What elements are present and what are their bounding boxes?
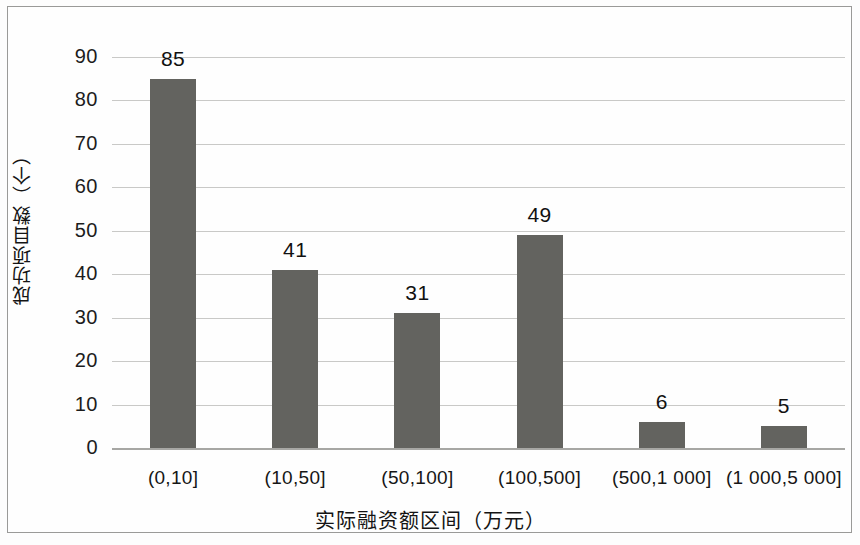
bar-value-label: 31 (367, 281, 467, 305)
gridline (112, 100, 845, 101)
y-axis-tick-label: 30 (40, 306, 98, 329)
gridline (112, 187, 845, 188)
bar (272, 270, 318, 448)
y-axis-tick-label: 40 (40, 262, 98, 285)
x-axis-title: 实际融资额区间（万元） (0, 505, 860, 534)
bar-value-label: 41 (245, 238, 345, 262)
y-axis-tick-label: 80 (40, 88, 98, 111)
plot-area: 8541314965 (112, 57, 845, 448)
gridline (112, 231, 845, 232)
bar (394, 313, 440, 448)
y-axis-tick-label: 10 (40, 393, 98, 416)
bar (150, 79, 196, 448)
y-axis-tick-label: 50 (40, 219, 98, 242)
x-axis-tick-label: (1 000,5 000] (704, 467, 860, 489)
chart-figure: 成功项目数（个） 0102030405060708090 8541314965 … (0, 0, 860, 545)
bar (639, 422, 685, 448)
y-axis-tick-label: 90 (40, 45, 98, 68)
axis-baseline (112, 448, 845, 450)
bar (761, 426, 807, 448)
y-axis-tick-label: 20 (40, 349, 98, 372)
bar-value-label: 85 (123, 47, 223, 71)
bar-value-label: 6 (612, 390, 712, 414)
bar-value-label: 5 (734, 394, 834, 418)
gridline (112, 318, 845, 319)
bar-value-label: 49 (490, 203, 590, 227)
y-axis-tick-label: 0 (40, 436, 98, 459)
gridline (112, 274, 845, 275)
bar (517, 235, 563, 448)
y-axis-tick-label: 70 (40, 132, 98, 155)
gridline (112, 361, 845, 362)
gridline (112, 144, 845, 145)
y-axis-tick-label: 60 (40, 175, 98, 198)
